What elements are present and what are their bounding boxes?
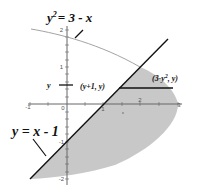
x-tick-label: -1 — [25, 104, 31, 110]
right-point-suffix: , y) — [167, 74, 179, 83]
right-point-label: (3-y2, y) — [152, 73, 178, 83]
y-marker-label: y — [46, 81, 51, 90]
region-dot — [122, 112, 124, 114]
parabola-label-rhs: = 3 - x — [58, 10, 93, 25]
y-tick-label: 2 — [60, 27, 64, 33]
parabola-curve — [31, 29, 140, 67]
y-tick-label: 1 — [60, 64, 64, 70]
left-point-label: (y+1, y) — [80, 82, 105, 91]
parabola-pointer — [75, 30, 83, 38]
line-pointer — [33, 139, 46, 156]
region-diagram: -1 0 1 2 3 2 1 -1 -2 y y2= 3 - x y = x -… — [0, 0, 198, 194]
parabola-label: y2= 3 - x — [45, 10, 93, 25]
right-point-prefix: (3-y — [152, 74, 165, 83]
line-label: y = x - 1 — [10, 124, 59, 139]
x-tick-label: 3 — [177, 102, 181, 108]
y-tick-label: -2 — [59, 176, 65, 182]
parabola-label-exp: 2 — [52, 10, 57, 19]
x-tick-label: 0 — [61, 105, 65, 111]
